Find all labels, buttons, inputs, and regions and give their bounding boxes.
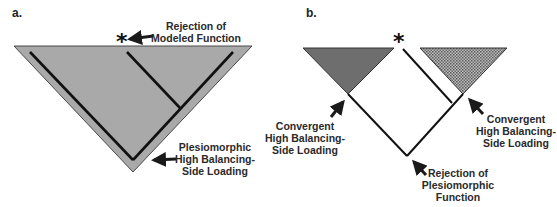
panel-b-bottom-label-line2: Plesiomorphic: [422, 179, 495, 191]
panel-b-bottom-arrow-icon: [414, 162, 426, 175]
panel-b-asterisk-icon: *: [393, 29, 405, 54]
panel-b-left-label-line3: Side Loading: [272, 144, 338, 156]
panel-b: b. * Convergent High Balancing- Side Loa…: [265, 6, 556, 203]
panel-b-right-arrow-icon: [470, 100, 483, 114]
panel-a-letter: a.: [12, 6, 22, 20]
panel-b-left-dark-triangle: [303, 48, 394, 94]
panel-a-asterisk-icon: *: [116, 29, 128, 54]
panel-a: a. * Rejection of Modeled Function Plesi…: [12, 6, 255, 177]
panel-b-right-label-line1: Convergent: [487, 113, 546, 125]
panel-b-left-label-line2: High Balancing-: [265, 132, 345, 144]
panel-a-top-arrow-icon: [130, 36, 153, 39]
panel-b-right-stem: [407, 94, 463, 156]
panel-b-letter: b.: [306, 6, 317, 20]
panel-a-bottom-label-line1: Plesiomorphic: [179, 141, 252, 153]
panel-b-left-label-line1: Convergent: [276, 120, 335, 132]
cladogram-figure: a. * Rejection of Modeled Function Plesi…: [0, 0, 557, 207]
panel-a-bottom-label-line3: Side Loading: [182, 165, 248, 177]
panel-a-top-label-line1: Rejection of: [166, 20, 227, 32]
panel-b-right-label-line2: High Balancing-: [476, 125, 556, 137]
panel-b-bottom-label-line1: Rejection of: [428, 167, 489, 179]
panel-a-bottom-label-line2: High Balancing-: [175, 153, 255, 165]
panel-b-left-stem: [348, 94, 407, 156]
panel-b-right-stippled-triangle: [420, 48, 507, 94]
panel-b-left-arrow-icon: [331, 102, 343, 117]
panel-b-bottom-label-line3: Function: [436, 191, 480, 203]
panel-a-bottom-arrow-icon: [154, 159, 176, 160]
panel-a-top-label-line2: Modeled Function: [151, 32, 241, 44]
panel-b-right-label-line3: Side Loading: [483, 137, 549, 149]
